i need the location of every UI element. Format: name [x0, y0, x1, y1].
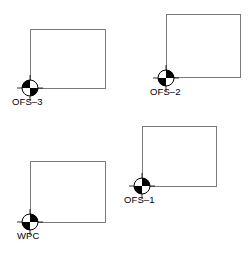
site-marker-diagram: OFS–3 OFS–2 OFS–1 WP — [0, 0, 251, 258]
site-label-ofs-2: OFS–2 — [150, 86, 181, 97]
site-label-ofs-3: OFS–3 — [12, 96, 43, 107]
site-label-ofs-1: OFS–1 — [124, 194, 155, 205]
site-label-wpc: WPC — [17, 230, 39, 241]
